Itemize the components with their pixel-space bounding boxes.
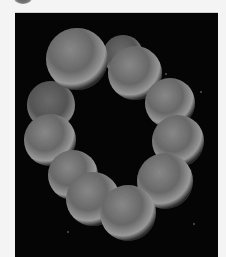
cell bbox=[100, 185, 156, 241]
micrograph-panel bbox=[15, 12, 218, 257]
bacteria-ring-image bbox=[15, 13, 218, 257]
speck bbox=[200, 91, 202, 93]
corner-mark bbox=[14, 0, 32, 4]
speck bbox=[165, 73, 167, 75]
speck bbox=[193, 223, 195, 225]
cell bbox=[46, 28, 108, 90]
speck bbox=[67, 231, 69, 233]
